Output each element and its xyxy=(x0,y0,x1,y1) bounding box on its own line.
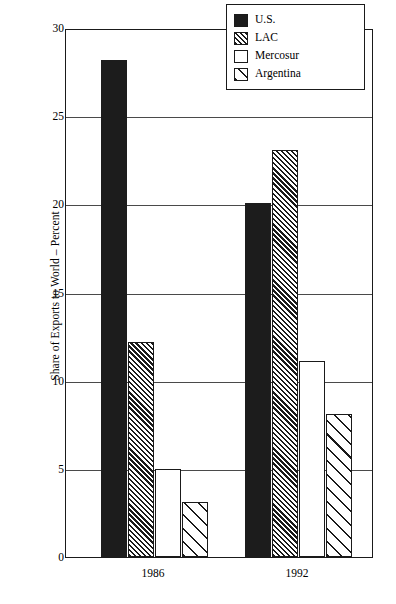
plot-area xyxy=(65,29,373,558)
y-tick-label-20: 20 xyxy=(28,200,64,212)
y-tick-label-5: 5 xyxy=(28,464,64,476)
bar-1992-us[interactable] xyxy=(245,203,271,557)
chart-legend: U.S. LAC Mercosur Argentina xyxy=(226,4,365,90)
legend-item-argentina[interactable]: Argentina xyxy=(234,65,357,83)
legend-swatch-us-icon xyxy=(234,14,248,27)
bar-1986-us[interactable] xyxy=(101,60,127,557)
bar-1992-argentina[interactable] xyxy=(326,414,352,557)
x-tick-label-1986: 1986 xyxy=(123,567,183,579)
legend-swatch-argentina-icon xyxy=(234,68,248,81)
legend-label-mercosur: Mercosur xyxy=(255,50,299,62)
x-tick-label-1992: 1992 xyxy=(267,567,327,579)
bar-1986-mercosur[interactable] xyxy=(155,469,181,557)
y-axis-tick-labels: 30 25 20 15 10 5 0 xyxy=(20,0,64,604)
legend-item-lac[interactable]: LAC xyxy=(234,29,357,47)
legend-label-argentina: Argentina xyxy=(255,68,301,80)
legend-label-lac: LAC xyxy=(255,32,278,44)
bar-1986-lac[interactable] xyxy=(128,342,154,557)
legend-label-us: U.S. xyxy=(255,14,275,26)
bar-1992-lac[interactable] xyxy=(272,150,298,557)
y-tick-label-25: 25 xyxy=(28,111,64,123)
y-tick-label-10: 10 xyxy=(28,376,64,388)
bar-1992-mercosur[interactable] xyxy=(299,361,325,557)
y-tick-label-15: 15 xyxy=(28,288,64,300)
legend-item-mercosur[interactable]: Mercosur xyxy=(234,47,357,65)
legend-item-us[interactable]: U.S. xyxy=(234,11,357,29)
y-tick-label-30: 30 xyxy=(28,23,64,35)
bar-1986-argentina[interactable] xyxy=(182,502,208,557)
plot-inner xyxy=(66,30,372,557)
legend-swatch-lac-icon xyxy=(234,32,248,45)
y-tick-label-0: 0 xyxy=(28,552,64,564)
bar-chart-figure: Share of Exports to World – Percent 30 2… xyxy=(0,0,396,604)
legend-swatch-mercosur-icon xyxy=(234,50,248,63)
